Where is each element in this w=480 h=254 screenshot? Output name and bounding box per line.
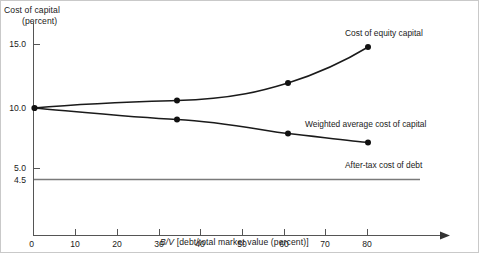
data-point-wacc-57 (285, 131, 291, 137)
series-label-cost-of-equity-capital: Cost of equity capital (345, 28, 423, 38)
data-point-equity-57 (285, 80, 291, 86)
series-cost-of-equity-capital (34, 47, 369, 109)
data-point-equity-78 (365, 44, 371, 50)
x-axis-title-symbol: B/V (160, 237, 174, 247)
data-point-origin (31, 105, 37, 111)
data-point-wacc-78 (365, 140, 371, 146)
data-point-equity-32 (174, 98, 180, 104)
x-tick-label-10: 10 (63, 239, 87, 249)
series-label-weighted-average-cost-of-capital: Weighted average cost of capital (305, 119, 426, 129)
x-axis-arrow-icon (440, 232, 450, 240)
x-axis-title: B/V [debt/total market value (percent)] (160, 237, 309, 248)
chart-figure: Cost of capital(percent) (0, 0, 480, 254)
x-tick-label-70: 70 (313, 239, 337, 249)
y-tick-label-5: 5.0 (0, 163, 26, 173)
series-label-after-tax-cost-of-debt: After-tax cost of debt (345, 160, 422, 170)
x-tick-label-20: 20 (105, 239, 129, 249)
x-axis-title-rest: [debt/total market value (percent)] (174, 237, 308, 247)
y-tick-label-4-5: 4.5 (0, 175, 26, 185)
y-tick-label-10: 10.0 (0, 103, 26, 113)
y-tick-label-15: 15.0 (0, 39, 26, 49)
y-tick-label-0: 0 (4, 239, 34, 249)
x-tick-label-80: 80 (355, 239, 379, 249)
data-point-wacc-32 (174, 117, 180, 123)
